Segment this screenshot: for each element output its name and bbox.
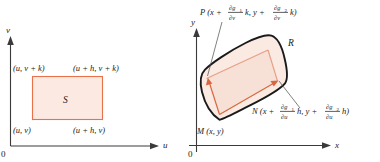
change-of-variables-figure: v u 0 S (u, v + k) (u + h, v + k) (u, v)…: [0, 0, 380, 162]
region-r-label: R: [287, 38, 294, 48]
x-axis: [189, 142, 331, 149]
u-axis: [11, 143, 160, 150]
point-p-term1-suffix: k, y +: [245, 7, 265, 17]
corner-label-bottom-left: (u, v): [13, 125, 31, 135]
v-axis-label: v: [6, 25, 10, 35]
point-p-fraction-2: ∂g 2 ∂v: [273, 4, 288, 21]
xy-plane-panel: y x 0 R M (x, y) P (x +: [188, 4, 349, 159]
point-n-frac2-numerator: ∂g: [326, 103, 333, 110]
point-n-prefix: N (x +: [251, 106, 274, 116]
point-p-prefix: P (x +: [199, 7, 222, 17]
point-p-term2-suffix: k): [290, 7, 297, 17]
y-axis-label: y: [190, 17, 195, 27]
figure-container: v u 0 S (u, v + k) (u + h, v + k) (u, v)…: [0, 0, 380, 162]
point-n-label: N (x + ∂g 1 ∂u h, y + ∂g 2 ∂u h): [251, 103, 349, 120]
uv-plane-panel: v u 0 S (u, v + k) (u + h, v + k) (u, v)…: [1, 25, 168, 159]
point-n-frac2-sub: 2: [337, 107, 340, 112]
point-p-frac2-sub: 2: [285, 8, 288, 13]
corner-label-bottom-right: (u + h, v): [73, 125, 105, 135]
point-p-frac2-numerator: ∂g: [274, 4, 281, 11]
corner-label-top-left: (u, v + k): [13, 63, 45, 73]
u-axis-label: u: [163, 140, 168, 150]
xy-origin-label: 0: [188, 149, 193, 159]
point-p-frac1-numerator: ∂g: [229, 4, 236, 11]
point-p-frac1-denominator: ∂v: [229, 14, 235, 21]
point-n-frac1-denominator: ∂u: [281, 113, 287, 120]
point-m-label: M (x, y): [196, 126, 224, 136]
uv-origin-label: 0: [1, 149, 6, 159]
point-n-frac1-sub: 1: [292, 107, 295, 112]
point-p-label: P (x + ∂g 1 ∂v k, y + ∂g 2 ∂v k): [199, 4, 297, 21]
point-n-fraction-2: ∂g 2 ∂u: [325, 103, 340, 120]
point-p-frac1-sub: 1: [240, 8, 243, 13]
corner-label-top-right: (u + h, v + k): [73, 63, 119, 73]
point-n-frac1-numerator: ∂g: [281, 103, 288, 110]
point-p-fraction-1: ∂g 1 ∂v: [228, 4, 243, 21]
region-s-label: S: [63, 95, 68, 105]
point-n-fraction-1: ∂g 1 ∂u: [280, 103, 295, 120]
point-n-frac2-denominator: ∂u: [326, 113, 332, 120]
point-n-term2-suffix: h): [342, 106, 349, 116]
point-p-frac2-denominator: ∂v: [274, 14, 280, 21]
point-n-term1-suffix: h, y +: [297, 106, 317, 116]
x-axis-label: x: [334, 140, 339, 150]
